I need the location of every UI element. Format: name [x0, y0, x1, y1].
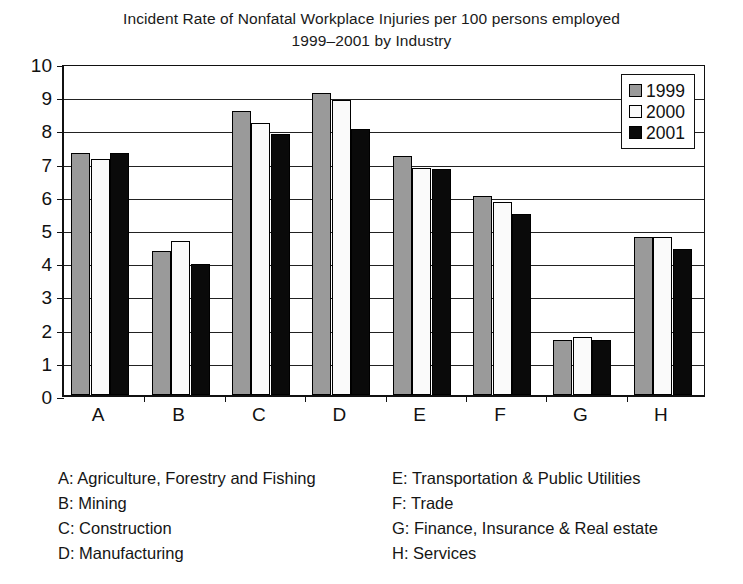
y-tick-1: [57, 365, 64, 366]
category-legend-line-right-3: H: Services: [392, 541, 732, 566]
legend-swatch-1999-icon: [629, 84, 642, 97]
bar-C-2001: [271, 134, 290, 395]
bar-B-1999: [152, 251, 171, 395]
legend-item-2000: 2000: [629, 101, 685, 122]
y-tick-label-9: 9: [41, 89, 52, 108]
y-tick-3: [57, 298, 64, 299]
bar-D-2000: [332, 100, 351, 395]
chart-title-line-1: Incident Rate of Nonfatal Workplace Inju…: [123, 10, 620, 27]
bar-H-2001: [673, 249, 692, 395]
chart-legend: 1999 2000 2001: [621, 74, 695, 149]
y-tick-label-5: 5: [41, 222, 52, 241]
y-axis-tick-labels: 012345678910: [0, 65, 56, 397]
chart-title: Incident Rate of Nonfatal Workplace Inju…: [0, 8, 743, 52]
x-axis-category-labels: ABCDEFGH: [62, 404, 705, 434]
bar-G-2000: [573, 337, 592, 395]
gridline-8: [64, 132, 704, 133]
y-tick-label-8: 8: [41, 122, 52, 141]
category-legend-line-right-1: F: Trade: [392, 491, 732, 516]
gridline-6: [64, 199, 704, 200]
legend-label-2001: 2001: [646, 124, 685, 142]
y-tick-label-2: 2: [41, 321, 52, 340]
y-tick-label-10: 10: [31, 56, 52, 75]
x-label-A: A: [92, 404, 105, 426]
category-legend-line-right-0: E: Transportation & Public Utilities: [392, 466, 732, 491]
bar-E-2001: [432, 169, 451, 395]
bar-B-2000: [171, 241, 190, 395]
y-tick-6: [57, 199, 64, 200]
y-tick-label-1: 1: [41, 354, 52, 373]
y-tick-7: [57, 166, 64, 167]
y-tick-8: [57, 132, 64, 133]
x-label-C: C: [252, 404, 266, 426]
category-legend-line-right-2: G: Finance, Insurance & Real estate: [392, 516, 732, 541]
legend-item-2001: 2001: [629, 122, 685, 143]
x-tick-7: [627, 395, 628, 402]
x-tick-1: [144, 395, 145, 402]
y-tick-10: [57, 66, 64, 67]
y-tick-label-6: 6: [41, 188, 52, 207]
gridline-5: [64, 232, 704, 233]
category-legend-line-left-0: A: Agriculture, Forestry and Fishing: [58, 466, 380, 491]
bar-H-1999: [634, 237, 653, 395]
y-tick-2: [57, 332, 64, 333]
category-legend: A: Agriculture, Forestry and FishingB: M…: [58, 466, 738, 566]
y-tick-0: [57, 398, 64, 399]
y-tick-label-7: 7: [41, 155, 52, 174]
x-label-E: E: [413, 404, 426, 426]
x-tick-3: [305, 395, 306, 402]
category-legend-right-column: E: Transportation & Public UtilitiesF: T…: [392, 466, 732, 566]
bar-F-2000: [493, 202, 512, 395]
legend-label-1999: 1999: [646, 82, 685, 100]
category-legend-line-left-1: B: Mining: [58, 491, 380, 516]
y-tick-label-0: 0: [41, 388, 52, 407]
bar-F-2001: [512, 214, 531, 395]
bar-G-2001: [592, 340, 611, 395]
x-label-F: F: [494, 404, 506, 426]
x-label-B: B: [172, 404, 185, 426]
legend-swatch-2000-icon: [629, 105, 642, 118]
bar-D-2001: [351, 129, 370, 395]
x-label-G: G: [573, 404, 588, 426]
category-legend-left-column: A: Agriculture, Forestry and FishingB: M…: [58, 466, 380, 566]
bar-E-1999: [393, 156, 412, 395]
bar-F-1999: [473, 196, 492, 395]
bar-A-1999: [71, 153, 90, 395]
bar-D-1999: [312, 93, 331, 395]
y-tick-9: [57, 99, 64, 100]
x-label-H: H: [654, 404, 668, 426]
bar-H-2000: [653, 237, 672, 395]
x-tick-6: [546, 395, 547, 402]
bar-C-1999: [232, 111, 251, 395]
bar-B-2001: [191, 264, 210, 395]
y-tick-label-3: 3: [41, 288, 52, 307]
x-tick-4: [386, 395, 387, 402]
x-tick-5: [466, 395, 467, 402]
y-tick-5: [57, 232, 64, 233]
bar-A-2001: [110, 153, 129, 395]
category-legend-line-left-2: C: Construction: [58, 516, 380, 541]
chart-figure: Incident Rate of Nonfatal Workplace Inju…: [0, 0, 743, 584]
bar-E-2000: [412, 168, 431, 395]
category-legend-line-left-3: D: Manufacturing: [58, 541, 380, 566]
plot-area: 1999 2000 2001: [62, 65, 705, 397]
chart-title-line-2: 1999–2001 by Industry: [0, 30, 743, 52]
bar-G-1999: [553, 340, 572, 395]
y-tick-4: [57, 265, 64, 266]
x-tick-2: [225, 395, 226, 402]
x-label-D: D: [332, 404, 346, 426]
bar-C-2000: [251, 123, 270, 395]
bar-A-2000: [91, 159, 110, 395]
gridline-7: [64, 166, 704, 167]
gridline-9: [64, 99, 704, 100]
y-tick-label-4: 4: [41, 255, 52, 274]
legend-label-2000: 2000: [646, 103, 685, 121]
legend-swatch-2001-icon: [629, 126, 642, 139]
legend-item-1999: 1999: [629, 80, 685, 101]
